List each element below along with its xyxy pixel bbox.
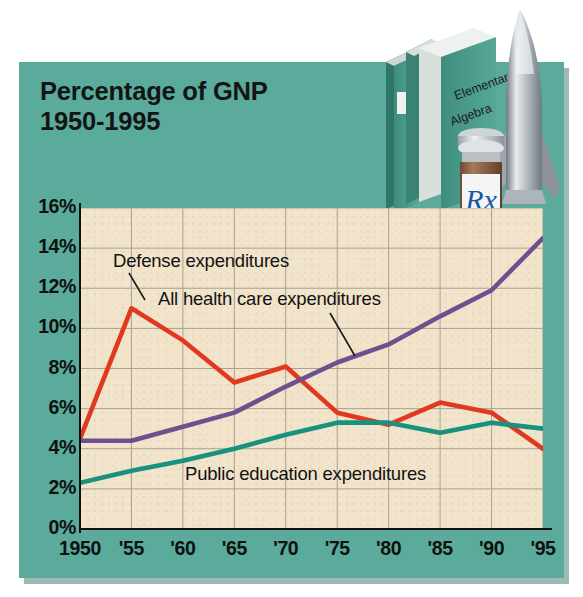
annotation-education: Public education expenditures <box>185 463 426 485</box>
y-tick-label: 10% <box>10 315 76 338</box>
annotation-defense: Defense expenditures <box>113 250 289 272</box>
annotation-health: All health care expenditures <box>158 288 381 310</box>
y-tick-label: 4% <box>10 436 76 459</box>
y-tick-label: 2% <box>10 476 76 499</box>
y-tick-label: 12% <box>10 275 76 298</box>
y-tick-label: 8% <box>10 356 76 379</box>
series-lines <box>80 238 543 483</box>
page-title: Percentage of GNP 1950-1995 <box>40 76 370 136</box>
y-axis-tick-labels: 0%2%4%6%8%10%12%14%16% <box>4 0 76 597</box>
y-axis-line <box>79 203 81 533</box>
x-tick-label: '95 <box>507 537 579 560</box>
y-tick-label: 14% <box>10 235 76 258</box>
x-axis-line <box>79 528 552 530</box>
title-line-2: 1950-1995 <box>40 106 370 136</box>
y-tick-label: 16% <box>10 195 76 218</box>
artwork-illustration: Elementary Algebra Rx <box>370 4 583 219</box>
y-tick-label: 6% <box>10 396 76 419</box>
chart-poster: Elementary Algebra Rx <box>0 0 583 597</box>
artwork-svg: Elementary Algebra Rx <box>370 4 583 219</box>
x-axis-tick-labels: 1950'55'60'65'70'75'80'85'90'95 <box>0 537 583 565</box>
y-tick-label: 0% <box>10 516 76 539</box>
pill-bottle: Rx <box>458 128 504 218</box>
